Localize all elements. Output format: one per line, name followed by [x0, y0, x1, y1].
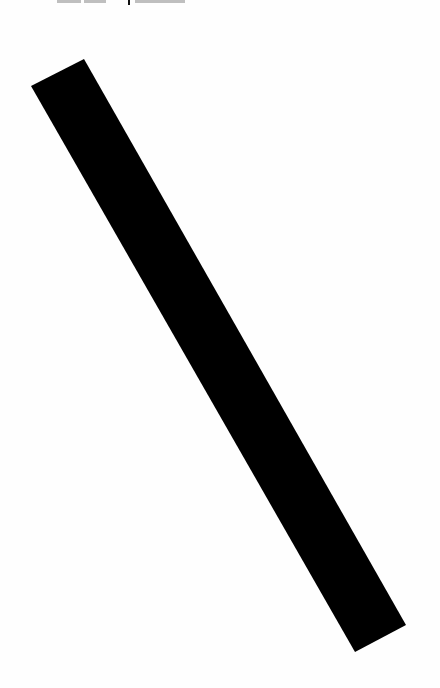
diagonal-black-bar	[31, 59, 406, 652]
diagonal-bar-graphic	[0, 0, 440, 688]
scanned-page	[0, 0, 440, 688]
